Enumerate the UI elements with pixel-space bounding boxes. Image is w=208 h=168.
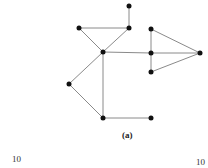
- graph-node: [149, 51, 154, 56]
- graph-edge: [79, 28, 103, 52]
- figure-caption: (a): [122, 130, 133, 140]
- graph-node: [149, 27, 154, 32]
- graph-node: [127, 4, 132, 9]
- graph-edge: [103, 52, 151, 53]
- graph-node: [149, 70, 154, 75]
- graph-edge: [151, 53, 200, 72]
- graph-edge: [69, 52, 103, 84]
- graph-edge: [103, 28, 129, 52]
- page-number-left: 10: [12, 154, 21, 164]
- graph-node: [127, 26, 132, 31]
- page-number-right: 10: [196, 157, 205, 167]
- graph-edge: [69, 84, 103, 118]
- graph-node: [101, 50, 106, 55]
- graph-diagram: [0, 0, 208, 168]
- graph-node: [77, 26, 82, 31]
- graph-node: [101, 116, 106, 121]
- graph-node: [67, 82, 72, 87]
- graph-node: [149, 116, 154, 121]
- graph-edge: [151, 29, 200, 53]
- graph-node: [198, 51, 203, 56]
